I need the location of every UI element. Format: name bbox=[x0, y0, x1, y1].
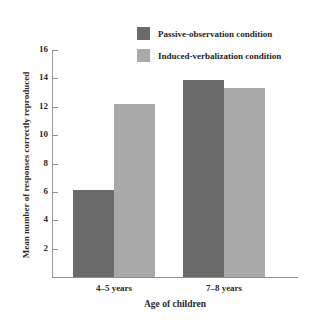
y-axis-tick bbox=[53, 78, 58, 79]
y-axis-tick bbox=[53, 220, 58, 221]
x-axis-group-label: 7–8 years bbox=[174, 283, 274, 293]
y-axis-tick-label: 12 bbox=[8, 102, 48, 111]
y-axis-tick bbox=[53, 249, 58, 250]
y-axis-tick bbox=[53, 164, 58, 165]
y-axis-tick bbox=[53, 135, 58, 136]
x-axis-line bbox=[52, 277, 298, 278]
y-axis-tick-label: 2 bbox=[8, 244, 48, 253]
y-axis-tick-label: 16 bbox=[8, 45, 48, 54]
y-axis-tick bbox=[53, 192, 58, 193]
y-axis-tick-label: 10 bbox=[8, 130, 48, 139]
bar-chart-figure: Passive-observation condition Induced-ve… bbox=[0, 0, 312, 330]
bar bbox=[183, 80, 224, 277]
x-axis-title: Age of children bbox=[52, 299, 298, 309]
y-axis-tick-label: 14 bbox=[8, 73, 48, 82]
bar bbox=[73, 190, 114, 277]
y-axis-tick bbox=[53, 50, 58, 51]
plot-area: Mean number of responses correctly repro… bbox=[0, 0, 312, 330]
y-axis-tick-label: 6 bbox=[8, 187, 48, 196]
bar bbox=[114, 104, 155, 277]
x-axis-group-label: 4–5 years bbox=[64, 283, 164, 293]
y-axis-tick-label: 4 bbox=[8, 215, 48, 224]
y-axis-tick-label: 8 bbox=[8, 159, 48, 168]
bar bbox=[224, 88, 265, 277]
y-axis-tick bbox=[53, 107, 58, 108]
